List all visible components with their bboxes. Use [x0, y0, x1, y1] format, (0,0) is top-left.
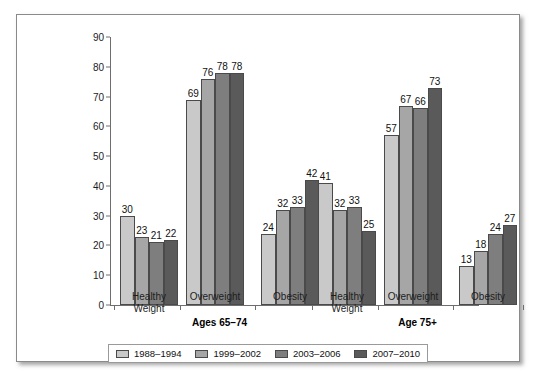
- bar[interactable]: [384, 135, 399, 305]
- bar-group: 69767878: [186, 37, 244, 305]
- bar-value-label: 67: [400, 94, 411, 105]
- bar-group: 57676673: [384, 37, 442, 305]
- bar[interactable]: [215, 73, 230, 305]
- bar-slot: 24: [488, 37, 503, 305]
- bar-slot: 78: [215, 37, 230, 305]
- legend-item[interactable]: 2003–2006: [275, 348, 341, 359]
- bar-group: 24323342: [261, 37, 319, 305]
- bar-value-label: 24: [490, 222, 501, 233]
- figure-frame: 0102030405060708090 30232122697678782432…: [16, 14, 520, 362]
- bar-slot: 67: [399, 37, 414, 305]
- bar-value-label: 27: [504, 213, 515, 224]
- bar-value-label: 57: [386, 123, 397, 134]
- legend-item[interactable]: 1988–1994: [116, 348, 182, 359]
- category-label-line: Healthy: [115, 291, 183, 303]
- bar[interactable]: [399, 106, 414, 306]
- bar[interactable]: [230, 73, 245, 305]
- bar-slot: 27: [503, 37, 518, 305]
- bar-value-label: 76: [202, 67, 213, 78]
- plot-area: 0102030405060708090 30232122697678782432…: [110, 37, 479, 305]
- bar-value-label: 66: [415, 96, 426, 107]
- x-axis-tick-mark: [453, 305, 454, 310]
- bar-slot: 30: [120, 37, 135, 305]
- bar[interactable]: [428, 88, 443, 305]
- bar-value-label: 23: [136, 225, 147, 236]
- bar[interactable]: [413, 108, 428, 305]
- bar[interactable]: [201, 79, 216, 305]
- legend-item[interactable]: 1999–2002: [195, 348, 261, 359]
- legend-label: 1999–2002: [213, 348, 261, 359]
- bar-value-label: 21: [151, 230, 162, 241]
- legend-swatch: [195, 350, 208, 358]
- legend-label: 2003–2006: [293, 348, 341, 359]
- bar-slot: 57: [384, 37, 399, 305]
- bar-slot: 22: [164, 37, 179, 305]
- x-axis-tick-mark: [523, 305, 524, 310]
- bar-value-label: 32: [334, 198, 345, 209]
- legend-swatch: [275, 350, 288, 358]
- super-group-label: Ages 65–74: [120, 317, 319, 328]
- bar-slot: 32: [333, 37, 348, 305]
- super-group-label: Age 75+: [318, 317, 517, 328]
- bar-group: 13182427: [459, 37, 517, 305]
- bar-slot: 13: [459, 37, 474, 305]
- bar[interactable]: [318, 183, 333, 305]
- bar-slot: 69: [186, 37, 201, 305]
- bar-value-label: 69: [188, 88, 199, 99]
- legend-swatch: [354, 350, 367, 358]
- legend-item[interactable]: 2007–2010: [354, 348, 420, 359]
- bar-value-label: 18: [475, 239, 486, 250]
- bar-value-label: 13: [461, 254, 472, 265]
- bar-slot: 73: [428, 37, 443, 305]
- bar-slot: 32: [276, 37, 291, 305]
- chart-legend: 1988–19941999–20022003–20062007–2010: [108, 344, 428, 363]
- category-label: Overweight: [181, 291, 249, 303]
- bar-slot: 18: [474, 37, 489, 305]
- category-label-line: Weight: [313, 303, 381, 315]
- y-axis-tick-mark: [106, 37, 110, 38]
- y-axis-tick-mark: [106, 215, 110, 216]
- y-axis-tick-mark: [106, 156, 110, 157]
- y-axis-tick-mark: [106, 275, 110, 276]
- bar-slot: 66: [413, 37, 428, 305]
- legend-label: 1988–1994: [134, 348, 182, 359]
- bar[interactable]: [186, 100, 201, 305]
- bar-slot: 21: [149, 37, 164, 305]
- legend-swatch: [116, 350, 129, 358]
- bar-value-label: 24: [263, 222, 274, 233]
- bar-slot: 25: [362, 37, 377, 305]
- category-label: Obesity: [454, 291, 522, 303]
- y-axis-tick-mark: [106, 185, 110, 186]
- bar-slot: 33: [347, 37, 362, 305]
- bar-value-label: 42: [306, 168, 317, 179]
- category-label-line: Healthy: [313, 291, 381, 303]
- bar-value-label: 33: [292, 195, 303, 206]
- y-axis-tick-mark: [106, 96, 110, 97]
- bar-group: 30232122: [120, 37, 178, 305]
- legend-label: 2007–2010: [372, 348, 420, 359]
- category-label-line: Obesity: [454, 291, 522, 303]
- category-label-line: Overweight: [181, 291, 249, 303]
- bar-slot: 33: [290, 37, 305, 305]
- y-axis-tick-mark: [106, 245, 110, 246]
- bar-slot: 24: [261, 37, 276, 305]
- y-axis-tick-mark: [106, 66, 110, 67]
- category-label-line: Overweight: [379, 291, 447, 303]
- x-axis-tick-mark: [255, 305, 256, 310]
- y-axis-tick-mark: [106, 305, 110, 306]
- bar-value-label: 32: [277, 198, 288, 209]
- bar-slot: 78: [230, 37, 245, 305]
- y-axis-tick-mark: [106, 126, 110, 127]
- bar-value-label: 41: [320, 171, 331, 182]
- bar-value-label: 73: [429, 76, 440, 87]
- bar[interactable]: [305, 180, 320, 305]
- bar-value-label: 22: [165, 228, 176, 239]
- bar-slot: 23: [135, 37, 150, 305]
- bar-value-label: 33: [349, 195, 360, 206]
- category-label: HealthyWeight: [313, 291, 381, 314]
- y-axis-line: [110, 37, 111, 305]
- bar-group: 41323325: [318, 37, 376, 305]
- bar-slot: 76: [201, 37, 216, 305]
- category-label: Overweight: [379, 291, 447, 303]
- bar-slot: 42: [305, 37, 320, 305]
